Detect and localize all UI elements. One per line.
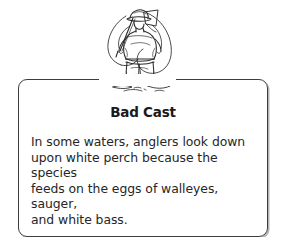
card-body-text: In some waters, anglers look down upon w… bbox=[31, 134, 257, 228]
angler-head bbox=[134, 22, 144, 32]
angler-torso bbox=[124, 31, 157, 61]
card-title: Bad Cast bbox=[18, 104, 268, 120]
illustration-border-gap bbox=[99, 74, 176, 86]
